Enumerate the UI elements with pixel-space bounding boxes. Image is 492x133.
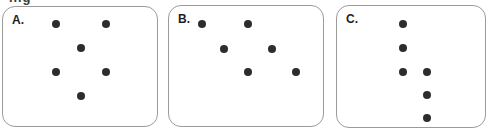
dot	[399, 20, 407, 28]
panel-b: B.	[168, 5, 324, 127]
panel-b-dots	[169, 6, 323, 126]
dot	[102, 68, 110, 76]
dot	[77, 44, 85, 52]
dot	[399, 44, 407, 52]
dot	[423, 91, 431, 99]
dot	[220, 45, 228, 53]
dot	[423, 68, 431, 76]
dot	[52, 68, 60, 76]
panel-c: C.	[336, 5, 486, 128]
dot	[198, 20, 206, 28]
dot	[244, 68, 252, 76]
dot	[399, 68, 407, 76]
dot	[77, 92, 85, 100]
dot	[292, 68, 300, 76]
dot	[102, 20, 110, 28]
panel-a: A.	[2, 6, 158, 127]
dot	[244, 20, 252, 28]
panel-c-dots	[337, 6, 485, 127]
dot	[52, 20, 60, 28]
dot	[268, 45, 276, 53]
panel-a-dots	[3, 7, 157, 126]
dot	[423, 114, 431, 122]
clipped-text-fragment: ing	[9, 0, 32, 5]
dot-pattern-figure: ing A. B. C.	[0, 0, 492, 133]
